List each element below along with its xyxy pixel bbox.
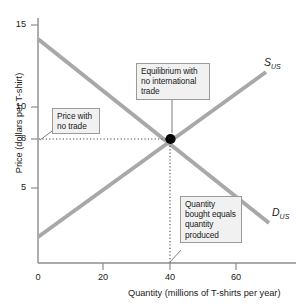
demand-label-sub: US — [280, 213, 290, 220]
equilibrium-dot — [165, 134, 175, 144]
callout-equilibrium: Equilibrium with no international trade — [136, 63, 210, 100]
x-tick-label-60: 60 — [225, 272, 247, 282]
x-axis-label: Quantity (millions of T-shirts per year) — [128, 288, 281, 298]
chart-plot-area — [0, 0, 302, 306]
y-axis-label: Price (dollars per T-shirt) — [14, 58, 24, 188]
supply-label-sub: US — [271, 63, 281, 70]
x-tick-label-0: 0 — [27, 272, 49, 282]
quantity-leader-line — [170, 250, 181, 262]
x-tick-label-20: 20 — [92, 272, 114, 282]
supply-label-letter: S — [264, 56, 271, 68]
callout-quantity-bought-equals-produced: Quantity bought equals quantity produced — [180, 196, 242, 243]
callout-price-with-no-trade: Price with no trade — [52, 108, 100, 134]
demand-label-letter: D — [272, 206, 280, 218]
x-tick-label-40: 40 — [159, 272, 181, 282]
supply-curve-label: SUS — [264, 56, 281, 70]
y-tick-label-15: 15 — [4, 19, 26, 29]
demand-curve-label: DUS — [272, 206, 289, 220]
supply-demand-figure: 15 10 8 5 0 20 40 60 Price (dollars per … — [0, 0, 302, 306]
